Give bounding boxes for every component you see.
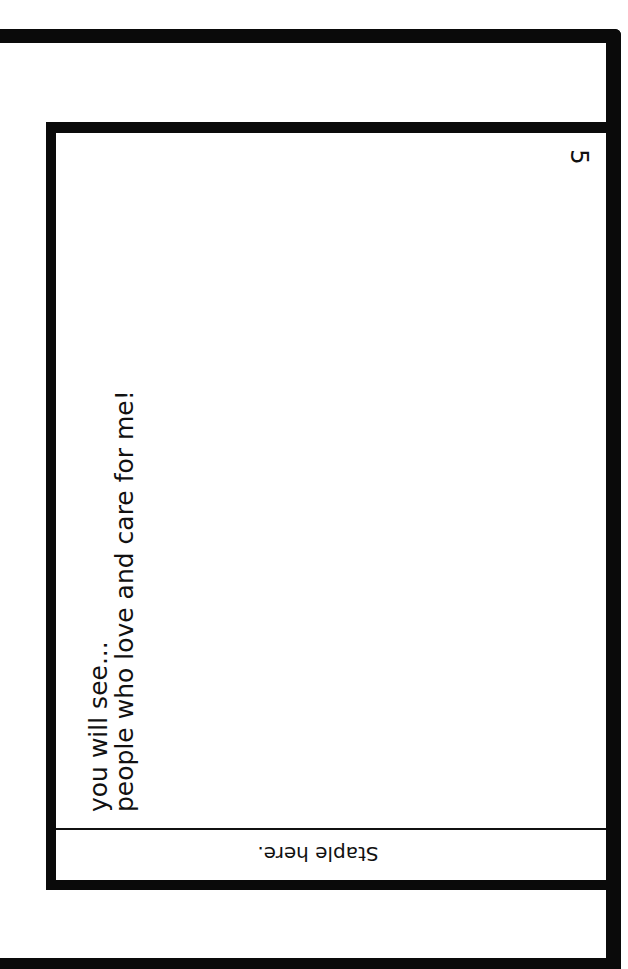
outer-frame-top-border — [0, 29, 621, 43]
staple-here-label: Staple here. — [240, 840, 396, 868]
verse-line-1: you will see... — [86, 242, 112, 812]
verse-line-2: people who love and care for me! — [112, 242, 138, 812]
staple-fold-line — [56, 828, 606, 830]
outer-frame-right-border — [606, 29, 621, 969]
verse-text: you will see... people who love and care… — [86, 242, 138, 812]
outer-frame-bottom-border — [0, 958, 621, 969]
page-number: 5 — [564, 144, 594, 170]
